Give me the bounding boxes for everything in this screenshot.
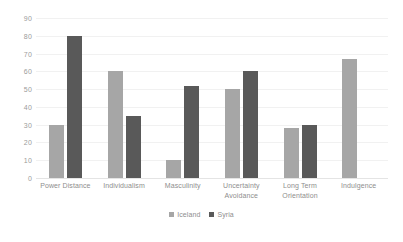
bar <box>302 125 317 178</box>
bar-group <box>212 18 271 178</box>
bar-group <box>153 18 212 178</box>
bar <box>225 89 240 178</box>
y-tick-label: 50 <box>24 86 32 93</box>
legend-label: Iceland <box>177 211 200 218</box>
bar-group <box>271 18 330 178</box>
bar <box>243 71 258 178</box>
legend-swatch-icon <box>209 212 214 217</box>
legend-swatch-icon <box>169 212 174 217</box>
bar <box>342 59 357 178</box>
axis-baseline <box>36 178 388 179</box>
x-tick-label: Indulgence <box>329 181 388 200</box>
bar-group <box>329 18 388 178</box>
y-axis: 9080706050403020100 <box>8 18 32 178</box>
y-tick-label: 70 <box>24 50 32 57</box>
x-tick-label: Masculinity <box>153 181 212 200</box>
x-tick-label: Individualism <box>95 181 154 200</box>
plot-area: 9080706050403020100 Power DistanceIndivi… <box>0 0 403 242</box>
y-tick-label: 60 <box>24 68 32 75</box>
bar <box>166 160 181 178</box>
bar <box>184 86 199 178</box>
y-tick-label: 80 <box>24 32 32 39</box>
grouped-bar-chart: 9080706050403020100 Power DistanceIndivi… <box>0 0 403 242</box>
bar <box>284 128 299 178</box>
x-tick-label: Uncertainty Avoidance <box>212 181 271 200</box>
y-tick-label: 10 <box>24 157 32 164</box>
y-tick-label: 40 <box>24 103 32 110</box>
chart-legend: IcelandSyria <box>0 211 403 218</box>
y-tick-label: 90 <box>24 15 32 22</box>
y-tick-label: 0 <box>28 175 32 182</box>
legend-item[interactable]: Iceland <box>169 211 200 218</box>
bar <box>49 125 64 178</box>
bar-group <box>95 18 154 178</box>
legend-label: Syria <box>217 211 233 218</box>
x-axis: Power DistanceIndividualismMasculinityUn… <box>36 181 388 200</box>
bar <box>126 116 141 178</box>
bar <box>108 71 123 178</box>
y-tick-label: 30 <box>24 121 32 128</box>
bar <box>67 36 82 178</box>
bars-container <box>36 18 388 178</box>
x-tick-label: Long Term Orientation <box>271 181 330 200</box>
x-tick-label: Power Distance <box>36 181 95 200</box>
y-tick-label: 20 <box>24 139 32 146</box>
bar-group <box>36 18 95 178</box>
legend-item[interactable]: Syria <box>209 211 233 218</box>
